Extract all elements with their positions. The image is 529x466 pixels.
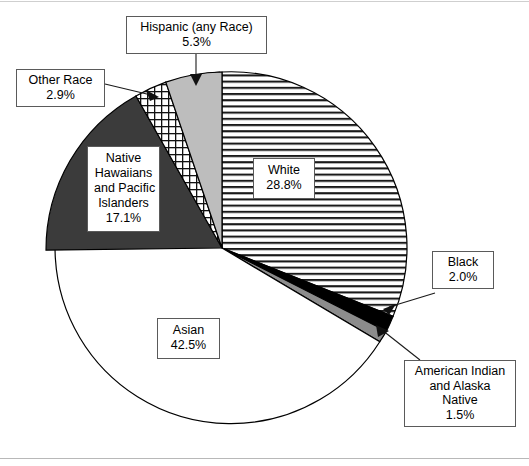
leader-line-american-indian xyxy=(382,330,420,360)
label-native-hawaiian-line3: and Pacific xyxy=(94,181,153,196)
label-white[interactable]: White 28.8% xyxy=(253,158,315,199)
callout-american-indian-line3: Native xyxy=(410,393,510,408)
callout-american-indian-line4: 1.5% xyxy=(410,408,510,423)
label-native-hawaiian-line4: Islanders xyxy=(94,196,153,211)
label-native-hawaiian[interactable]: Native Hawaiians and Pacific Islanders 1… xyxy=(87,146,160,232)
label-white-line1: White xyxy=(260,163,308,178)
leader-line-other-race xyxy=(105,84,151,95)
callout-hispanic[interactable]: Hispanic (any Race) 5.3% xyxy=(126,16,267,54)
callout-other-race[interactable]: Other Race 2.9% xyxy=(16,69,105,107)
pie-slices xyxy=(46,72,407,424)
label-native-hawaiian-line1: Native xyxy=(94,151,153,166)
callout-black[interactable]: Black 2.0% xyxy=(432,251,494,289)
label-asian-line2: 42.5% xyxy=(164,338,213,353)
callout-american-indian-line2: and Alaska xyxy=(410,379,510,394)
callout-hispanic-line2: 5.3% xyxy=(132,35,261,50)
label-native-hawaiian-line2: Hawaiians xyxy=(94,166,153,181)
label-native-hawaiian-line5: 17.1% xyxy=(94,211,153,226)
callout-hispanic-line1: Hispanic (any Race) xyxy=(132,20,261,35)
label-asian[interactable]: Asian 42.5% xyxy=(157,318,220,359)
callout-american-indian-line1: American Indian xyxy=(410,364,510,379)
label-asian-line1: Asian xyxy=(164,323,213,338)
chart-page: Hispanic (any Race) 5.3% Other Race 2.9%… xyxy=(0,0,529,466)
label-white-line2: 28.8% xyxy=(260,178,308,193)
callout-black-line1: Black xyxy=(438,255,488,270)
callout-other-race-line2: 2.9% xyxy=(22,88,99,103)
callout-black-line2: 2.0% xyxy=(438,270,488,285)
callout-american-indian[interactable]: American Indian and Alaska Native 1.5% xyxy=(404,360,516,427)
callout-other-race-line1: Other Race xyxy=(22,73,99,88)
